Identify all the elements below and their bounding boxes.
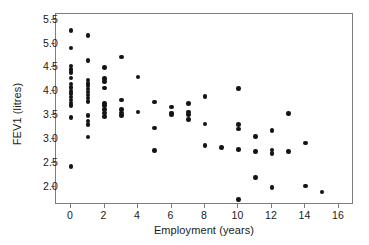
x-tick-label: 14: [298, 209, 310, 221]
x-tick-label: 2: [101, 209, 107, 221]
data-point: [102, 79, 107, 84]
y-tick-label: 2.0: [43, 180, 58, 192]
data-point: [186, 112, 191, 117]
data-point: [152, 126, 157, 131]
data-point: [186, 101, 191, 106]
data-point: [69, 76, 74, 81]
data-point: [69, 103, 74, 108]
y-tick-label: 2.5: [43, 156, 58, 168]
plot-data-area: [56, 14, 352, 203]
data-point: [152, 148, 157, 153]
data-point: [320, 190, 325, 195]
data-point: [236, 86, 241, 91]
data-point: [169, 112, 174, 117]
x-tick-label: 16: [332, 209, 344, 221]
data-point: [236, 147, 241, 152]
x-tick-mark: [137, 204, 138, 208]
x-tick-mark: [304, 204, 305, 208]
data-point: [236, 197, 241, 202]
data-point: [102, 114, 107, 119]
data-point: [286, 111, 291, 116]
data-point: [119, 98, 124, 103]
y-tick-label: 4.0: [43, 84, 58, 96]
data-point: [253, 175, 258, 180]
data-point: [69, 46, 74, 51]
x-tick-mark: [237, 204, 238, 208]
data-point: [270, 128, 275, 133]
x-tick-mark: [104, 204, 105, 208]
data-point: [86, 135, 91, 140]
x-tick-mark: [171, 204, 172, 208]
data-point: [186, 117, 191, 122]
x-tick-label: 12: [265, 209, 277, 221]
x-tick-label: 6: [168, 209, 174, 221]
data-point: [270, 151, 275, 156]
data-point: [236, 127, 241, 132]
x-tick-mark: [204, 204, 205, 208]
y-tick-label: 3.0: [43, 132, 58, 144]
data-point: [86, 33, 91, 38]
scatter-plot-figure: 0246810121416 2.02.53.03.54.04.55.05.5 E…: [0, 0, 369, 245]
y-tick-label: 3.5: [43, 108, 58, 120]
data-point: [69, 70, 74, 75]
x-tick-label: 8: [201, 209, 207, 221]
y-tick-label: 4.5: [43, 60, 58, 72]
data-point: [69, 164, 74, 169]
data-point: [136, 110, 141, 115]
data-point: [86, 122, 91, 127]
data-point: [119, 55, 124, 60]
data-point: [303, 141, 308, 146]
data-point: [69, 28, 74, 33]
data-point: [86, 113, 91, 118]
x-tick-label: 10: [232, 209, 244, 221]
data-point: [69, 115, 74, 120]
y-tick-label: 5.5: [43, 13, 58, 25]
data-point: [119, 113, 124, 118]
data-point: [219, 145, 224, 150]
x-tick-label: 4: [134, 209, 140, 221]
data-point: [102, 65, 107, 70]
x-tick-label: 0: [67, 209, 73, 221]
data-point: [286, 149, 291, 154]
data-point: [102, 86, 107, 91]
data-point: [203, 122, 208, 127]
plot-frame: [55, 13, 353, 204]
data-point: [253, 134, 258, 139]
data-point: [86, 99, 91, 104]
data-point: [152, 100, 157, 105]
x-tick-mark: [271, 204, 272, 208]
x-tick-mark: [70, 204, 71, 208]
data-point: [270, 185, 275, 190]
y-tick-label: 5.0: [43, 37, 58, 49]
data-point: [203, 94, 208, 99]
data-point: [169, 105, 174, 110]
x-tick-mark: [338, 204, 339, 208]
x-axis-title: Employment (years): [55, 224, 353, 236]
data-point: [86, 58, 91, 63]
y-axis-title: FEV1 (litres): [11, 44, 23, 184]
data-point: [136, 75, 141, 80]
data-point: [203, 143, 208, 148]
data-point: [303, 184, 308, 189]
data-point: [253, 149, 258, 154]
